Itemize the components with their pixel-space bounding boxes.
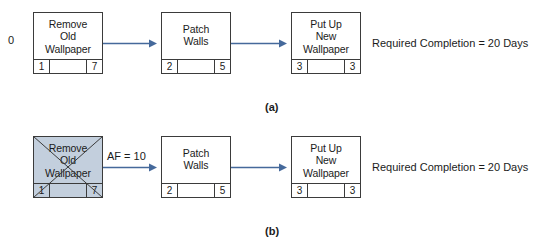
activity-node-put-up-new-wallpaper[interactable]: Put Up New Wallpaper 3 3 bbox=[291, 12, 361, 74]
required-completion-note: Required Completion = 20 Days bbox=[372, 37, 528, 49]
activity-node-strip: 2 5 bbox=[162, 59, 230, 73]
arrow-patch-to-putup bbox=[231, 39, 287, 48]
activity-node-title: Put Up New Wallpaper bbox=[292, 18, 360, 55]
panel-caption-a: (a) bbox=[265, 101, 278, 113]
activity-node-strip: 1 7 bbox=[34, 183, 102, 197]
activity-node-left-value: 3 bbox=[292, 59, 308, 73]
activity-node-remove-old-wallpaper[interactable]: Remove Old Wallpaper 1 7 bbox=[33, 12, 103, 74]
diagram-panel-a: 0 Remove Old Wallpaper 1 7 Patch Walls 2… bbox=[0, 0, 539, 124]
activity-float-label: AF = 10 bbox=[107, 150, 146, 162]
start-time-label: 0 bbox=[8, 34, 14, 46]
arrow-remove-to-patch bbox=[103, 163, 157, 172]
activity-node-right-value: 7 bbox=[86, 183, 102, 197]
activity-node-left-value: 2 bbox=[162, 59, 178, 73]
activity-node-left-value: 1 bbox=[34, 59, 50, 73]
activity-node-left-value: 3 bbox=[292, 183, 308, 197]
activity-node-patch-walls[interactable]: Patch Walls 2 5 bbox=[161, 136, 231, 198]
activity-node-right-value: 7 bbox=[86, 59, 102, 73]
panel-caption-b: (b) bbox=[265, 225, 279, 237]
arrow-patch-to-putup bbox=[231, 163, 287, 172]
required-completion-note: Required Completion = 20 Days bbox=[372, 161, 528, 173]
activity-node-left-value: 1 bbox=[34, 183, 50, 197]
arrow-remove-to-patch bbox=[103, 39, 157, 48]
activity-node-left-value: 2 bbox=[162, 183, 178, 197]
activity-node-title: Patch Walls bbox=[162, 147, 230, 172]
activity-node-put-up-new-wallpaper[interactable]: Put Up New Wallpaper 3 3 bbox=[291, 136, 361, 198]
activity-node-strip: 3 3 bbox=[292, 59, 360, 73]
activity-node-remove-old-wallpaper-crossed[interactable]: Remove Old Wallpaper 1 7 bbox=[33, 136, 103, 198]
activity-node-right-value: 5 bbox=[214, 59, 230, 73]
diagram-panel-b: Remove Old Wallpaper 1 7 AF = 10 Patch W… bbox=[0, 124, 539, 248]
activity-node-patch-walls[interactable]: Patch Walls 2 5 bbox=[161, 12, 231, 74]
activity-node-right-value: 3 bbox=[344, 59, 360, 73]
activity-node-right-value: 3 bbox=[344, 183, 360, 197]
activity-node-title: Put Up New Wallpaper bbox=[292, 142, 360, 179]
activity-node-strip: 2 5 bbox=[162, 183, 230, 197]
activity-node-title: Patch Walls bbox=[162, 23, 230, 48]
activity-node-right-value: 5 bbox=[214, 183, 230, 197]
activity-node-title: Remove Old Wallpaper bbox=[34, 142, 102, 179]
activity-node-strip: 3 3 bbox=[292, 183, 360, 197]
activity-node-strip: 1 7 bbox=[34, 59, 102, 73]
activity-node-title: Remove Old Wallpaper bbox=[34, 18, 102, 55]
